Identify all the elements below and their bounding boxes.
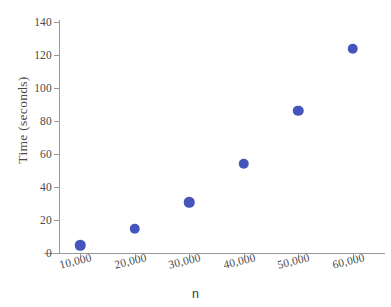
x-tick-label: 60,000 xyxy=(331,251,366,271)
y-tick-label: 0 xyxy=(18,247,52,259)
y-tick-mark xyxy=(54,187,59,188)
y-tick-label: 140 xyxy=(18,16,52,28)
y-tick-mark xyxy=(54,22,59,23)
x-tick-label: 30,000 xyxy=(167,251,202,271)
y-tick-mark xyxy=(54,220,59,221)
data-point xyxy=(238,158,249,169)
scatter-chart: 0 20 40 60 80 100 120 140 10,000 20,000 … xyxy=(0,0,391,307)
x-axis-title: n xyxy=(0,287,391,301)
data-point xyxy=(184,197,195,208)
y-tick-label: 20 xyxy=(18,214,52,226)
data-point xyxy=(129,223,140,234)
x-axis-line xyxy=(44,253,385,254)
y-tick-mark xyxy=(54,253,59,254)
y-tick-mark xyxy=(54,55,59,56)
data-point xyxy=(347,44,358,55)
x-tick-label: 50,000 xyxy=(276,251,311,271)
x-tick-label: 20,000 xyxy=(113,251,148,271)
x-tick-label: 10,000 xyxy=(58,251,93,271)
y-tick-mark xyxy=(54,88,59,89)
data-point xyxy=(75,240,86,251)
x-tick-label: 40,000 xyxy=(222,251,257,271)
data-point xyxy=(293,105,304,116)
y-tick-mark xyxy=(54,154,59,155)
y-tick-mark xyxy=(54,121,59,122)
y-axis-line xyxy=(59,20,60,254)
y-axis-title: Time (seconds) xyxy=(15,45,31,195)
